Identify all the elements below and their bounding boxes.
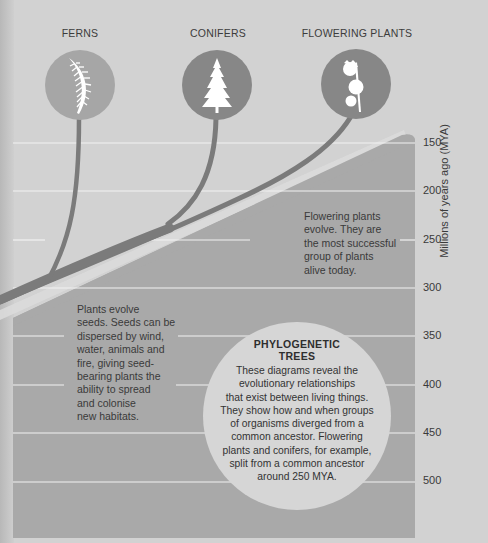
flowering-plants-note: Flowering plants evolve. They are the mo… [304,210,396,277]
group-label-conifers: CONIFERS [187,27,249,39]
axis-tick-500: 500 [423,474,441,486]
axis-tick-350: 350 [423,329,441,341]
axis-tick-400: 400 [423,378,441,390]
axis-tick-300: 300 [423,281,441,293]
group-label-ferns: FERNS [56,27,104,39]
axis-tick-450: 450 [423,426,441,438]
info-title: PHYLOGENETIC TREES [237,338,357,362]
axis-title: Millions of years ago (MYA) [436,111,452,271]
group-label-flowering-plants: FLOWERING PLANTS [301,27,413,39]
phylogenetic-trees-info: PHYLOGENETIC TREES These diagrams reveal… [203,322,391,510]
phylogenetic-tree-diagram: FERNS CONIFERS FLOWERING PLANTS 150 200 … [0,0,488,543]
seeds-note: Plants evolve seeds. Seeds can be disper… [77,303,175,424]
info-body: These diagrams reveal the evolutionary r… [209,364,385,484]
conifer-branch [168,118,216,224]
fern-branch [48,118,79,280]
